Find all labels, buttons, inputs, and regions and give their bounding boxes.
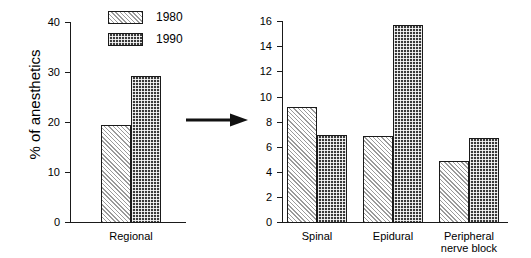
- right-ticklabel-12: 12: [248, 66, 272, 77]
- left-y-axis: [70, 22, 71, 223]
- figure-two-panel-bar-chart: % of anesthetics 1980 1990 40 30 20 10 0: [0, 0, 531, 258]
- right-ticklabel-16: 16: [248, 16, 272, 27]
- legend-swatch-1980: [108, 11, 143, 24]
- right-tick-0: [277, 222, 282, 223]
- left-ticklabel-30: 30: [34, 67, 60, 78]
- bar-spinal-1980: [287, 107, 317, 223]
- bar-peripheral-nerve-block-1990: [469, 138, 499, 223]
- right-ticklabel-6: 6: [248, 142, 272, 153]
- left-tick-20: [65, 122, 70, 123]
- right-tick-12: [277, 71, 282, 72]
- right-panel: 16 14 12 10 8 6 4 2 0 Spinal Epidural Pe…: [248, 0, 531, 258]
- left-tick-40: [65, 22, 70, 23]
- bar-spinal-1990: [317, 135, 347, 223]
- left-tick-30: [65, 72, 70, 73]
- right-tick-6: [277, 147, 282, 148]
- right-category-label-peripheral-nerve-block: Peripheral nerve block: [419, 230, 519, 254]
- right-tick-16: [277, 21, 282, 22]
- left-tick-0: [65, 222, 70, 223]
- left-category-label-regional: Regional: [81, 230, 181, 242]
- right-tick-8: [277, 122, 282, 123]
- bar-epidural-1980: [363, 136, 393, 223]
- left-tick-10: [65, 172, 70, 173]
- legend-swatch-1990: [108, 33, 143, 46]
- bar-regional-1980: [101, 125, 131, 223]
- right-tick-10: [277, 97, 282, 98]
- right-ticklabel-4: 4: [248, 167, 272, 178]
- right-ticklabel-0: 0: [248, 217, 272, 228]
- left-ticklabel-10: 10: [34, 167, 60, 178]
- left-ticklabel-0: 0: [34, 217, 60, 228]
- right-ticklabel-14: 14: [248, 41, 272, 52]
- y-axis-title: % of anesthetics: [26, 25, 43, 185]
- right-ticklabel-8: 8: [248, 117, 272, 128]
- legend-label-1980: 1980: [156, 11, 183, 24]
- right-tick-2: [277, 197, 282, 198]
- bar-epidural-1990: [393, 25, 423, 223]
- right-ticklabel-10: 10: [248, 92, 272, 103]
- right-tick-14: [277, 46, 282, 47]
- right-ticklabel-2: 2: [248, 192, 272, 203]
- left-panel: % of anesthetics 1980 1990 40 30 20 10 0: [0, 0, 186, 258]
- legend-label-1990: 1990: [156, 33, 183, 46]
- right-y-axis: [282, 21, 283, 223]
- bar-regional-1990: [131, 76, 161, 223]
- left-ticklabel-40: 40: [34, 17, 60, 28]
- right-tick-4: [277, 172, 282, 173]
- left-ticklabel-20: 20: [34, 117, 60, 128]
- bar-peripheral-nerve-block-1980: [439, 161, 469, 223]
- right-arrow-icon: [186, 113, 248, 127]
